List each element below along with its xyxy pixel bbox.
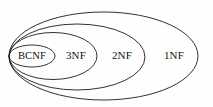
label-1nf: 1NF	[164, 49, 184, 61]
normal-forms-diagram: BCNF 3NF 2NF 1NF	[0, 0, 213, 107]
normal-forms-svg-canvas: BCNF 3NF 2NF 1NF	[0, 0, 213, 107]
label-bcnf: BCNF	[18, 50, 46, 61]
label-2nf: 2NF	[112, 49, 132, 61]
label-3nf: 3NF	[66, 49, 86, 61]
